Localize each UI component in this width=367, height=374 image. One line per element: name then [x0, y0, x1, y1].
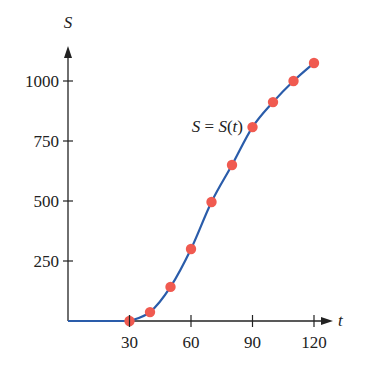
data-point: [145, 307, 155, 317]
x-tick-label: 60: [183, 333, 200, 352]
x-tick-label: 30: [121, 333, 138, 352]
data-points: [124, 58, 319, 327]
chart: 2505007501000306090120 StS = S(t): [0, 0, 367, 374]
data-point: [247, 122, 257, 132]
data-point: [186, 244, 196, 254]
x-tick-label: 120: [301, 333, 327, 352]
y-axis-arrow-icon: [64, 46, 72, 58]
data-point: [288, 76, 298, 86]
y-axis-label: S: [64, 13, 73, 32]
y-tick-label: 500: [34, 192, 60, 211]
data-point: [309, 58, 319, 68]
data-point: [268, 97, 278, 107]
curve-annotation: S = S(t): [192, 117, 243, 136]
data-point: [165, 282, 175, 292]
y-tick-label: 750: [34, 132, 60, 151]
labels: StS = S(t): [64, 13, 344, 330]
x-tick-label: 90: [244, 333, 261, 352]
y-tick-label: 1000: [25, 72, 59, 91]
y-tick-label: 250: [34, 252, 60, 271]
axes: 2505007501000306090120: [25, 46, 333, 352]
x-axis-label: t: [338, 311, 344, 330]
x-axis-arrow-icon: [321, 317, 333, 325]
data-point: [227, 160, 237, 170]
data-point: [206, 197, 216, 207]
